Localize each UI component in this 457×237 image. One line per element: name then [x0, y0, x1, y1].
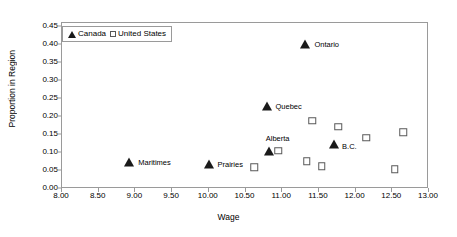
x-tick-label: 10.50 — [234, 192, 254, 200]
x-tick-label: 10.00 — [198, 192, 218, 200]
point-label: B.C. — [342, 143, 357, 151]
y-tick-mark — [57, 152, 61, 153]
united-states-marker — [399, 128, 407, 136]
x-axis-title: Wage — [0, 213, 457, 222]
y-tick-mark — [57, 188, 61, 189]
x-tick-label: 13.00 — [418, 192, 438, 200]
united-states-marker — [335, 123, 343, 131]
y-tick-mark — [57, 170, 61, 171]
point-label: Maritimes — [138, 159, 171, 167]
y-tick-label: 0.10 — [42, 148, 58, 156]
y-tick-label: 0.40 — [42, 40, 58, 48]
legend-label: United States — [118, 30, 166, 38]
y-tick-mark — [57, 134, 61, 135]
y-tick-mark — [57, 80, 61, 81]
united-states-marker — [308, 117, 316, 125]
legend-square-icon — [110, 31, 116, 37]
canada-marker — [300, 40, 310, 49]
united-states-marker — [391, 166, 399, 174]
united-states-marker — [250, 163, 258, 171]
y-tick-mark — [57, 116, 61, 117]
legend-triangle-icon — [68, 31, 76, 38]
x-tick-label: 11.50 — [308, 192, 327, 200]
canada-marker — [204, 160, 214, 169]
x-tick-label: 9.50 — [163, 192, 179, 200]
y-tick-label: 0.15 — [42, 130, 58, 138]
canada-marker — [124, 158, 134, 167]
y-tick-label: 0.05 — [42, 166, 58, 174]
x-tick-mark — [318, 188, 319, 192]
x-tick-mark — [134, 188, 135, 192]
x-tick-mark — [355, 188, 356, 192]
united-states-marker — [275, 147, 283, 155]
canada-marker — [262, 101, 272, 110]
x-tick-mark — [171, 188, 172, 192]
x-tick-label: 12.00 — [345, 192, 365, 200]
x-tick-mark — [281, 188, 282, 192]
x-tick-label: 9.00 — [127, 192, 143, 200]
x-tick-mark — [428, 188, 429, 192]
point-label: Quebec — [276, 103, 302, 111]
y-tick-label: 0.20 — [42, 112, 58, 120]
legend-item: United States — [110, 30, 166, 38]
legend-label: Canada — [78, 30, 106, 38]
y-tick-label: 0.30 — [42, 76, 58, 84]
united-states-marker — [363, 134, 371, 142]
y-tick-label: 0.25 — [42, 94, 58, 102]
point-label: Ontario — [314, 41, 339, 49]
canada-marker — [264, 147, 274, 156]
x-tick-label: 11.00 — [271, 192, 290, 200]
legend-item: Canada — [68, 30, 106, 38]
x-tick-mark — [208, 188, 209, 192]
x-tick-mark — [61, 188, 62, 192]
chart-legend: CanadaUnited States — [62, 26, 172, 42]
x-tick-label: 8.50 — [90, 192, 106, 200]
y-tick-mark — [57, 44, 61, 45]
y-tick-mark — [57, 98, 61, 99]
x-tick-label: 12.50 — [381, 192, 401, 200]
x-tick-label: 8.00 — [53, 192, 69, 200]
united-states-marker — [303, 158, 311, 166]
y-axis: 0.000.050.100.150.200.250.300.350.400.45 — [0, 0, 58, 237]
x-tick-mark — [391, 188, 392, 192]
plot-area — [61, 22, 428, 188]
y-tick-label: 0.35 — [42, 58, 58, 66]
canada-marker — [329, 140, 339, 149]
y-tick-label: 0.45 — [42, 22, 58, 30]
y-tick-mark — [57, 62, 61, 63]
x-tick-mark — [245, 188, 246, 192]
y-tick-mark — [57, 26, 61, 27]
point-label: Prairies — [218, 161, 243, 169]
scatter-chart: Proportion in Region Wage 0.000.050.100.… — [0, 0, 457, 237]
x-tick-mark — [98, 188, 99, 192]
point-label: Alberta — [266, 135, 290, 143]
united-states-marker — [318, 162, 326, 170]
